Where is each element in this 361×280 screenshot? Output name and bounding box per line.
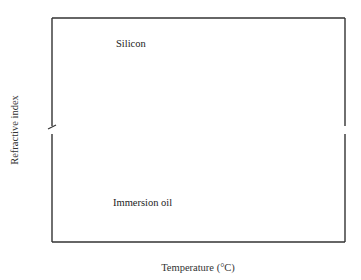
series-label-silicon: Silicon (116, 38, 147, 49)
plot-frame (52, 18, 345, 242)
x-axis-title: Temperature (°C) (161, 262, 235, 274)
series-label-immersion-oil: Immersion oil (113, 197, 172, 208)
y-axis-title: Refractive index (9, 94, 20, 164)
refractive-index-chart: Temperature (°C) Refractive index Silico… (0, 0, 361, 280)
